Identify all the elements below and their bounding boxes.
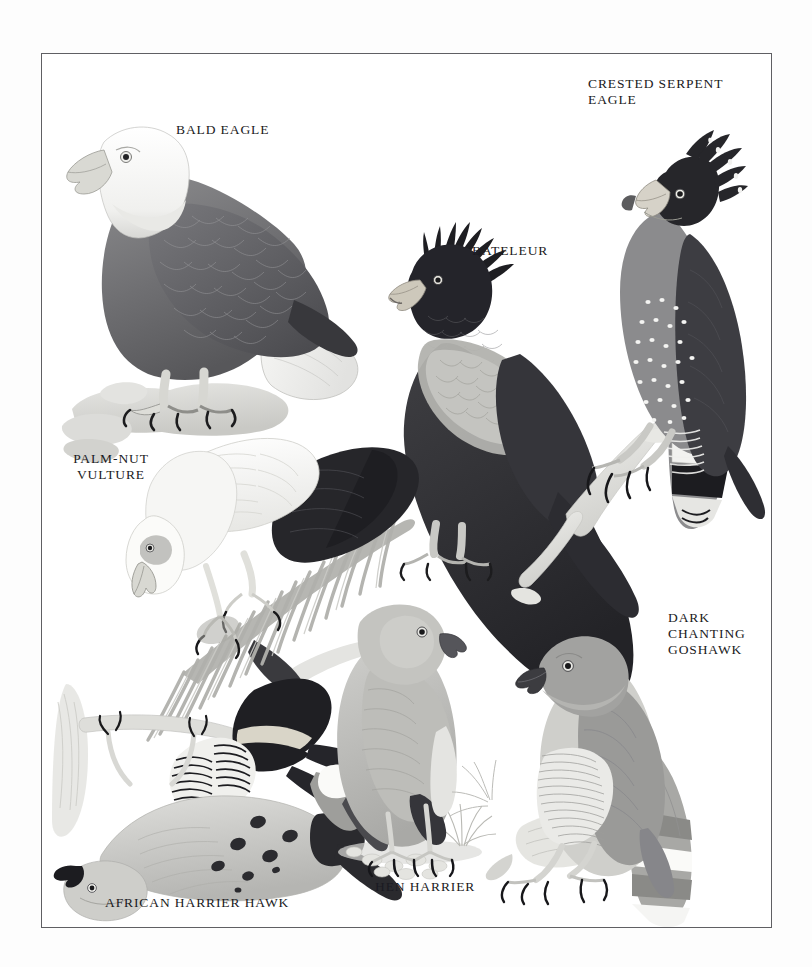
plate-artwork [42,54,771,927]
goshawk-grass [450,760,496,816]
serpent-eagle-crest [654,130,748,226]
bird-bald-eagle [62,127,358,463]
illustration-plate: BALD EAGLE CRESTED SERPENT EAGLE BATELEU… [41,53,772,928]
label-african-harrier-hawk: AFRICAN HARRIER HAWK [105,895,289,911]
bird-dark-chanting-goshawk [450,636,692,927]
label-palm-nut-vulture: PALM-NUT VULTURE [59,451,163,483]
label-crested-serpent-eagle: CRESTED SERPENT EAGLE [588,76,771,108]
label-bateleur: BATELEUR [472,243,548,259]
label-dark-chanting-goshawk: DARK CHANTING GOSHAWK [668,610,771,658]
palm-nut-vulture-feet [193,554,280,658]
label-hen-harrier: HEN HARRIER [375,879,475,895]
label-bald-eagle: BALD EAGLE [176,122,269,138]
